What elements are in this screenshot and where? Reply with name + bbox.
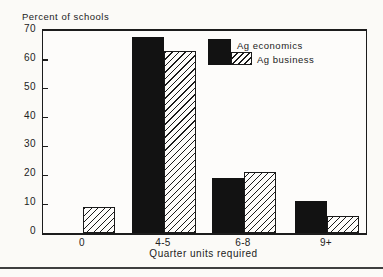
bar-ag-business-6-8 [244,172,276,233]
x-category-label-4-5: 4-5 [139,237,187,249]
bar-ag-business-9+ [327,216,359,233]
bar-ag-economics-9+ [295,201,327,233]
legend-label-ag-economics: Ag economics [237,40,303,51]
y-tick-label-0: 0 [2,225,36,237]
bar-ag-business-0 [83,207,115,233]
y-tick-20 [43,175,48,176]
y-tick-label-70: 70 [2,23,36,35]
y-tick-label-20: 20 [2,167,36,179]
figure: Percent of schools Ag economics Ag busin… [0,0,383,277]
y-axis-title: Percent of schools [22,11,109,22]
page-divider-line [0,267,383,269]
y-tick-30 [43,146,48,147]
y-tick-50 [43,88,48,89]
y-tick-label-30: 30 [2,138,36,150]
legend-swatch-hatch [231,52,252,65]
legend-swatch-solid [208,39,231,65]
y-tick-label-60: 60 [2,52,36,64]
bar-ag-business-4-5 [164,51,196,233]
x-category-label-6-8: 6-8 [219,237,267,249]
y-tick-label-40: 40 [2,110,36,122]
y-tick-label-10: 10 [2,196,36,208]
y-tick-40 [43,117,48,118]
y-tick-10 [43,204,48,205]
y-tick-60 [43,59,48,60]
plot-area: Ag economics Ag business [42,29,367,235]
legend-label-ag-business: Ag business [257,54,314,65]
bar-ag-economics-4-5 [132,37,164,233]
x-category-label-0: 0 [58,237,106,249]
x-category-label-9+: 9+ [302,237,350,249]
bar-ag-economics-6-8 [212,178,244,233]
x-axis-title: Quarter units required [42,248,365,259]
y-tick-label-50: 50 [2,81,36,93]
